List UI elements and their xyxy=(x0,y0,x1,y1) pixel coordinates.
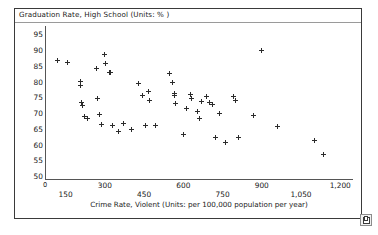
data-point xyxy=(55,58,60,63)
y-axis-title: Graduation Rate, High School (Units: % ) xyxy=(19,10,169,19)
data-point xyxy=(153,123,158,128)
data-point xyxy=(251,113,256,118)
data-point xyxy=(121,121,126,126)
data-point xyxy=(95,96,100,101)
chart-window: Graduation Rate, High School (Units: % )… xyxy=(14,8,362,219)
data-point xyxy=(321,152,326,157)
y-axis-tick-label: 85 xyxy=(19,63,43,71)
x-axis-line xyxy=(45,179,353,180)
resize-square-icon[interactable] xyxy=(360,214,372,226)
data-point xyxy=(136,81,141,86)
data-point xyxy=(78,83,83,88)
x-axis-tick-label: 1,200 xyxy=(330,181,351,190)
data-point xyxy=(85,116,90,121)
data-point xyxy=(110,123,115,128)
resize-icon-inner-square xyxy=(364,216,368,221)
data-point xyxy=(129,127,134,132)
plot-region: 50556065707580859095 0 15030045060075090… xyxy=(15,23,361,218)
data-point xyxy=(102,52,107,57)
y-axis-tick-label: 70 xyxy=(19,110,43,118)
data-point xyxy=(103,61,108,66)
y-axis-tick-label: 60 xyxy=(19,142,43,150)
data-point xyxy=(184,106,189,111)
y-axis-tick-label: 90 xyxy=(19,47,43,55)
data-point xyxy=(94,66,99,71)
data-point xyxy=(210,102,215,107)
data-point xyxy=(217,111,222,116)
data-point xyxy=(65,60,70,65)
data-point xyxy=(116,129,121,134)
data-point xyxy=(259,48,264,53)
data-point xyxy=(147,98,152,103)
x-axis-tick-label: 900 xyxy=(255,181,269,190)
x-axis-tick-label: 150 xyxy=(59,190,73,199)
data-point xyxy=(167,71,172,76)
x-axis-title: Crime Rate, Violent (Units: per 100,000 … xyxy=(46,200,352,209)
data-point xyxy=(97,112,102,117)
data-point xyxy=(172,93,177,98)
data-point xyxy=(143,123,148,128)
data-point xyxy=(213,135,218,140)
data-point xyxy=(199,99,204,104)
x-axis-tick-label: 450 xyxy=(137,190,151,199)
data-point xyxy=(99,122,104,127)
y-axis-tick-label: 95 xyxy=(19,31,43,39)
y-axis-tick-label: 50 xyxy=(19,173,43,181)
chart-title-bar: Graduation Rate, High School (Units: % ) xyxy=(15,9,361,23)
data-point xyxy=(195,109,200,114)
x-axis-tick-label: 1,050 xyxy=(290,190,311,199)
y-axis-tick-label: 80 xyxy=(19,79,43,87)
data-point xyxy=(181,132,186,137)
y-axis-tick-label: 55 xyxy=(19,157,43,165)
x-axis-tick-label: 300 xyxy=(98,181,112,190)
data-point xyxy=(140,93,145,98)
scatter-plot-area xyxy=(46,29,352,177)
data-point xyxy=(197,116,202,121)
data-point xyxy=(189,96,194,101)
x-axis-tick-label: 600 xyxy=(176,181,190,190)
data-point xyxy=(233,98,238,103)
data-point xyxy=(170,80,175,85)
y-axis-tick-label: 75 xyxy=(19,94,43,102)
data-point xyxy=(312,138,317,143)
data-point xyxy=(173,101,178,106)
data-point xyxy=(204,94,209,99)
data-point xyxy=(80,103,85,108)
data-point xyxy=(275,124,280,129)
y-axis-tick-labels: 50556065707580859095 xyxy=(15,23,43,183)
data-point xyxy=(108,70,113,75)
y-axis-tick-label: 65 xyxy=(19,126,43,134)
data-point xyxy=(223,140,228,145)
x-axis-tick-label: 750 xyxy=(215,190,229,199)
data-point xyxy=(146,89,151,94)
axis-origin-label: 0 xyxy=(43,181,47,189)
data-point xyxy=(236,135,241,140)
